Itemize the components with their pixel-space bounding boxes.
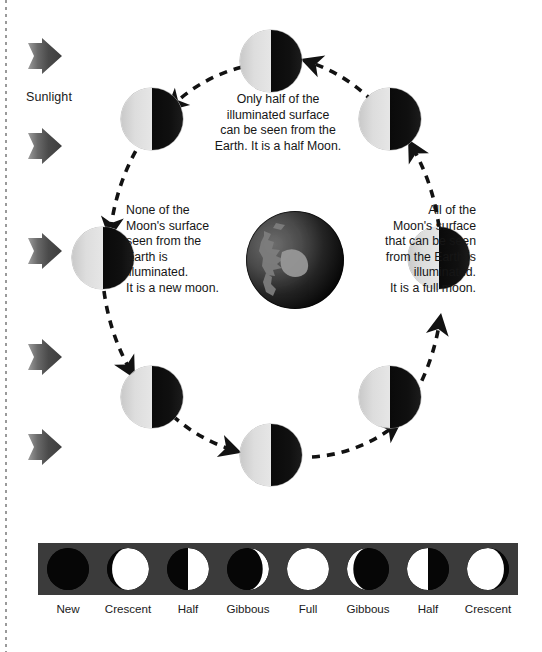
orbit-moon xyxy=(121,366,183,428)
sunlight-arrow-icon xyxy=(26,126,64,166)
orbit-moon-lit-half xyxy=(359,366,390,428)
orbit-moon-lit-half xyxy=(240,424,271,486)
caption-line: Moon's surface xyxy=(126,219,242,235)
caption-line: seen from the xyxy=(126,234,242,250)
caption-line: illuminated. xyxy=(126,265,242,281)
sunlight-arrow-icon xyxy=(26,337,64,377)
phase-disc-half-2 xyxy=(167,548,209,590)
phase-disc-half-6 xyxy=(407,548,449,590)
sunlight-arrow-icon xyxy=(26,231,64,271)
orbit-moon-lit-half xyxy=(121,366,152,428)
orbit-moon-dark-half xyxy=(271,424,302,486)
orbit-moon-dark-half xyxy=(390,366,421,428)
caption-line: All of the xyxy=(352,203,476,219)
orbit-moon xyxy=(121,88,183,150)
orbit-moon-lit-half xyxy=(121,88,152,150)
caption-line: can be seen from the xyxy=(178,123,378,139)
phase-disc-shape xyxy=(407,548,449,590)
orbit-moon-lit-half xyxy=(72,227,103,289)
phase-disc-gibbous-3 xyxy=(227,548,269,590)
orbit-moon xyxy=(240,30,302,92)
sunlight-arrow-icon xyxy=(26,427,64,467)
phase-disc-shape xyxy=(167,548,209,590)
phase-disc-shape xyxy=(467,548,509,590)
phase-disc-crescent-1 xyxy=(107,548,149,590)
earth-globe xyxy=(246,211,344,309)
orbit-moon xyxy=(240,424,302,486)
phase-disc-shape xyxy=(107,548,149,590)
caption-line: that can be seen xyxy=(352,234,476,250)
orbit-moon-lit-half xyxy=(240,30,271,92)
phase-disc-gibbous-5 xyxy=(347,548,389,590)
phase-disc-shape xyxy=(347,548,389,590)
caption-line: Moon's surface xyxy=(352,219,476,235)
caption-line: illuminated. xyxy=(352,265,476,281)
phase-disc-full-4 xyxy=(287,548,329,590)
phase-label: Crescent xyxy=(445,602,531,615)
orbit-moon xyxy=(359,366,421,428)
orbit-moon-dark-half xyxy=(271,30,302,92)
phase-disc-crescent-7 xyxy=(467,548,509,590)
caption-line: It is a full moon. xyxy=(352,281,476,297)
sunlight-arrow-icon xyxy=(26,36,64,76)
page-edge-dotted-rule xyxy=(5,0,7,652)
caption-half-moon: Only half of theilluminated surfacecan b… xyxy=(178,92,378,154)
caption-full-moon: All of theMoon's surfacethat can be seen… xyxy=(352,203,476,297)
phase-disc-new-0 xyxy=(47,548,89,590)
caption-line: Earth is xyxy=(126,250,242,266)
caption-line: None of the xyxy=(126,203,242,219)
orbit-moon-dark-half xyxy=(390,88,421,150)
phase-disc-shape xyxy=(227,548,269,590)
moon-phases-diagram: Sunlight xyxy=(0,0,542,652)
phase-disc-shape xyxy=(47,548,89,590)
caption-line: illuminated surface xyxy=(178,108,378,124)
sunlight-label: Sunlight xyxy=(26,90,72,104)
phase-strip-background xyxy=(38,543,518,595)
caption-line: It is a new moon. xyxy=(126,281,242,297)
orbit-moon xyxy=(72,227,134,289)
phase-disc-shape xyxy=(287,548,329,590)
caption-line: from the Earth is xyxy=(352,250,476,266)
caption-line: Earth. It is a half Moon. xyxy=(178,139,378,155)
orbit-moon-dark-half xyxy=(152,366,183,428)
caption-new-moon: None of theMoon's surfaceseen from theEa… xyxy=(126,203,242,297)
caption-line: Only half of the xyxy=(178,92,378,108)
